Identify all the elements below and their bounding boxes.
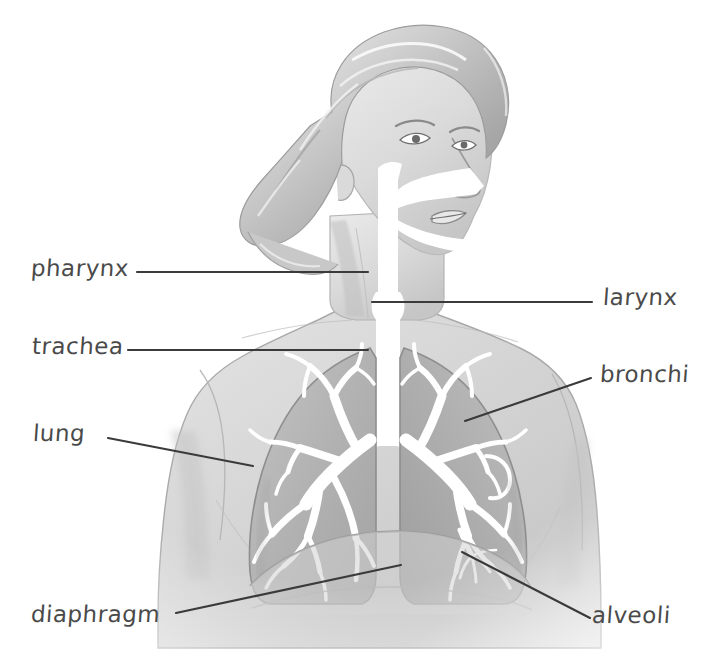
diagram-canvas: pharynx trachea lung diaphragm larynx br…: [0, 0, 707, 665]
label-larynx: larynx: [602, 284, 679, 310]
label-bronchi: bronchi: [599, 361, 690, 387]
label-lung: lung: [32, 420, 86, 446]
label-trachea: trachea: [31, 333, 124, 359]
label-pharynx: pharynx: [30, 255, 130, 281]
label-alveoli: alveoli: [591, 602, 671, 628]
label-diaphragm: diaphragm: [30, 601, 161, 627]
